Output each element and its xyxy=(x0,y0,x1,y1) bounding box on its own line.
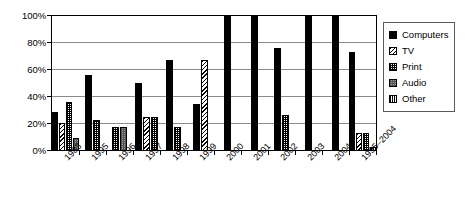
y-tick-label-20: 20% xyxy=(2,119,46,129)
legend-item-audio[interactable]: Audio xyxy=(389,75,450,91)
legend-swatch-tv-icon xyxy=(389,47,397,55)
y-tick-label-40: 40% xyxy=(2,92,46,102)
bar[interactable] xyxy=(201,60,208,150)
legend-label-print: Print xyxy=(402,62,422,72)
bar[interactable] xyxy=(143,117,150,151)
y-tick-label-80: 80% xyxy=(2,38,46,48)
bar[interactable] xyxy=(166,60,173,150)
bar[interactable] xyxy=(224,16,231,150)
bar[interactable] xyxy=(193,104,200,150)
bar[interactable] xyxy=(349,52,355,150)
bar-group xyxy=(106,16,133,150)
legend-item-tv[interactable]: TV xyxy=(389,43,450,59)
bar-group xyxy=(241,16,268,150)
legend-item-computers[interactable]: Computers xyxy=(389,27,450,43)
bar-chart: 100% 80% 60% 40% 20% 0% 1983199519961997… xyxy=(0,0,465,197)
y-tick-label-0: 0% xyxy=(2,146,46,156)
bar[interactable] xyxy=(332,16,339,150)
bar[interactable] xyxy=(66,102,72,150)
legend-swatch-audio-icon xyxy=(389,79,397,87)
bar-group xyxy=(268,16,295,150)
legend-label-audio: Audio xyxy=(402,78,426,88)
bar[interactable] xyxy=(356,133,362,150)
bar[interactable] xyxy=(305,16,312,150)
bar-group xyxy=(79,16,106,150)
bar-group xyxy=(214,16,241,150)
bar-group xyxy=(349,16,376,150)
legend-swatch-print-icon xyxy=(389,63,397,71)
legend-swatch-other-icon xyxy=(389,95,397,103)
bar[interactable] xyxy=(52,112,58,150)
plot-area xyxy=(51,15,377,151)
y-tick-label-100: 100% xyxy=(2,11,46,21)
bar-group xyxy=(295,16,322,150)
bar-group xyxy=(52,16,79,150)
bar[interactable] xyxy=(112,127,119,150)
bar[interactable] xyxy=(251,16,258,150)
legend-label-other: Other xyxy=(402,94,426,104)
legend-swatch-computers-icon xyxy=(389,31,397,39)
bar-group xyxy=(160,16,187,150)
legend-label-computers: Computers xyxy=(402,30,448,40)
bar-group xyxy=(133,16,160,150)
legend: Computers TV Print Audio Other xyxy=(383,22,455,112)
legend-item-print[interactable]: Print xyxy=(389,59,450,75)
bar[interactable] xyxy=(59,123,65,150)
bar-group xyxy=(187,16,214,150)
legend-item-other[interactable]: Other xyxy=(389,91,450,107)
y-tick-label-60: 60% xyxy=(2,65,46,75)
bar-group xyxy=(322,16,349,150)
bar[interactable] xyxy=(135,83,142,150)
bar[interactable] xyxy=(274,48,281,150)
legend-label-tv: TV xyxy=(402,46,414,56)
bar[interactable] xyxy=(85,75,92,150)
